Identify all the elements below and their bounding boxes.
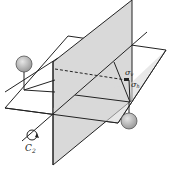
vertical-plane <box>53 0 132 165</box>
rotation-arrowhead <box>35 133 39 138</box>
atom-left <box>16 56 32 72</box>
arrow-marker <box>124 78 129 81</box>
atom-right <box>121 113 137 129</box>
c2-label: C2 <box>25 143 36 154</box>
symmetry-diagram: σv σh C2 <box>0 0 172 171</box>
